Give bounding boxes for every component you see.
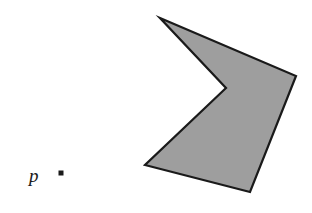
point-p-label: p (29, 166, 39, 185)
geometry-figure (0, 0, 312, 213)
point-p-marker (59, 171, 64, 176)
figure-canvas: p (0, 0, 312, 213)
